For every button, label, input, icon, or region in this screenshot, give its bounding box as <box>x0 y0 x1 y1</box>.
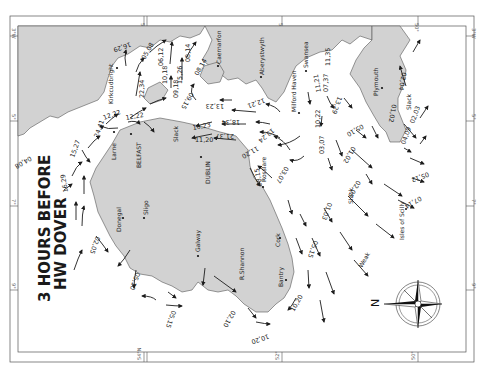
rate-label: 13,23 <box>206 102 224 110</box>
place-bantry: Bantry <box>277 267 285 287</box>
left-label-9: 9° <box>11 283 17 289</box>
rate-label: 22,34 <box>138 80 146 98</box>
place-milford-haven: Milford Haven <box>290 70 297 112</box>
place-sligo: Sligo <box>142 200 150 215</box>
rate-label: 11,35 <box>324 48 332 66</box>
title-line-2: HW DOVER <box>52 197 70 290</box>
slack-label-irish-sea: Slack <box>172 126 179 142</box>
place-aberystwyth: Aberystwyth <box>258 37 266 75</box>
rate-label: 06,12 <box>157 48 165 66</box>
left-label-7: 7° <box>11 199 17 205</box>
left-label-3w: 3°W <box>11 28 17 39</box>
rate-label: 11,20 <box>195 136 213 144</box>
right-label-5: 5° <box>471 114 477 120</box>
rate-label: 10,22 <box>314 110 322 128</box>
place-plymouth: Plymouth <box>372 67 380 96</box>
rate-label: 03,07 <box>318 136 326 154</box>
right-label-3w: 3°W <box>471 28 477 39</box>
place-donegal: Donegal <box>115 207 123 232</box>
place-isles-of-scilly: Isles of Scilly <box>398 201 406 240</box>
bottom-label-50: 50° <box>410 351 416 360</box>
place-swansea: Swansea <box>302 41 309 68</box>
rate-label: 18,34 <box>222 118 240 126</box>
place-cork: Cork <box>274 233 281 247</box>
place-larne: Larne <box>110 143 117 160</box>
rate-label: 09,18 <box>172 80 180 98</box>
bottom-label-52: 52° <box>274 351 280 360</box>
rate-label: 08,14 <box>184 44 192 62</box>
bottom-label-54n: 54°N <box>136 347 142 360</box>
left-label-5: 5° <box>11 114 17 120</box>
place-caernarfon: Caernarfon <box>215 30 222 64</box>
top-label-50: 50° <box>414 23 420 32</box>
place-kirkcudbright: Kirkcudbright <box>107 63 115 104</box>
rate-label: 07,37 <box>322 74 330 92</box>
place-galway: Galway <box>194 229 202 252</box>
place-r-shannon: R.Shannon <box>238 248 245 280</box>
slack-label-channel: Slack <box>405 94 412 110</box>
place-belfast: BELFAST <box>135 142 142 168</box>
tidal-stream-map: 54°N 52° 50° 54°N 52° 50° 3°W 5° 7° 9° 3… <box>0 0 494 374</box>
compass-north-label: N <box>369 299 382 307</box>
right-label-9: 9° <box>471 283 477 289</box>
rate-label: 10,18 <box>161 66 169 84</box>
place-dublin: DUBLIN <box>204 161 211 184</box>
right-label-7: 7° <box>471 199 477 205</box>
rate-label: 21,37 <box>216 132 234 140</box>
